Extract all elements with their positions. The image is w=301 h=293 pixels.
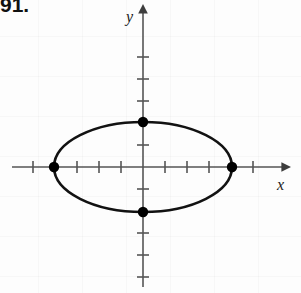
point-left-vertex	[49, 162, 59, 172]
x-axis-label: x	[276, 176, 284, 193]
point-bottom-covertex	[138, 207, 148, 217]
point-top-covertex	[138, 117, 148, 127]
point-right-vertex	[227, 162, 237, 172]
figure-page: 91.	[0, 0, 301, 293]
y-axis-label: y	[124, 8, 134, 26]
cartesian-plot: x y	[0, 0, 301, 293]
y-axis-group: y	[124, 8, 149, 287]
